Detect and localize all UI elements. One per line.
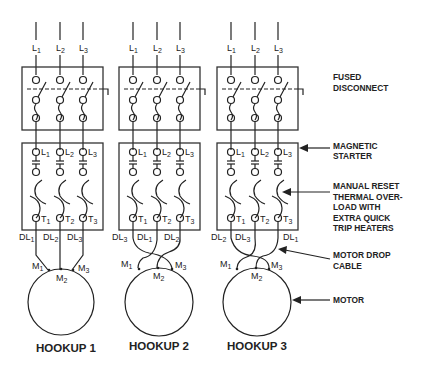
drop-labels: DL1 DL2 DL3: [19, 232, 83, 243]
svg-text:L1: L1: [236, 147, 245, 158]
svg-text:L3: L3: [79, 43, 88, 54]
svg-text:DL3: DL3: [235, 232, 251, 243]
svg-text:M2: M2: [153, 271, 165, 282]
svg-text:L2: L2: [251, 43, 260, 54]
svg-text:L2: L2: [260, 147, 269, 158]
svg-text:DL2: DL2: [43, 232, 59, 243]
callout-fused-disconnect: FUSED DISCONNECT: [333, 72, 389, 93]
callout-motor-drop-cable: MOTOR DROP CABLE: [278, 246, 391, 271]
svg-text:L1: L1: [138, 147, 147, 158]
motor-terminals: M1 M2 M3: [220, 259, 283, 282]
line-labels: L1 L2 L3: [227, 43, 283, 54]
starter-line-labels: L1 L2 L3: [138, 147, 194, 158]
fused-disconnect-switches: [27, 77, 108, 151]
motor-drop-cable: [133, 221, 180, 268]
hookup-2: L1 L2 L3 L1 L2 L3: [112, 22, 205, 352]
arrow-icon: [278, 246, 287, 254]
callout-magnetic-starter: MAGNETIC STARTER: [299, 141, 378, 161]
drop-labels: DL3 DL1 DL2: [112, 232, 180, 243]
motor-terminals: M1 M2 M3: [121, 259, 187, 282]
hookup-1: L1 L2 L3: [19, 22, 108, 354]
svg-text:M3: M3: [271, 260, 283, 271]
svg-text:L3: L3: [274, 43, 283, 54]
magnetic-starter-contacts: [225, 149, 288, 222]
svg-text:DL1: DL1: [19, 232, 35, 243]
svg-text:M2: M2: [56, 273, 68, 284]
svg-text:L2: L2: [162, 147, 171, 158]
svg-text:M3: M3: [78, 263, 90, 274]
fused-disconnect-switches: [222, 77, 303, 151]
svg-text:L2: L2: [56, 43, 65, 54]
svg-text:DISCONNECT: DISCONNECT: [333, 83, 389, 93]
arrow-icon: [299, 144, 308, 152]
svg-text:T2: T2: [162, 214, 172, 225]
svg-text:M3: M3: [175, 260, 187, 271]
svg-text:MANUAL RESET: MANUAL RESET: [333, 181, 400, 191]
svg-text:MOTOR DROP: MOTOR DROP: [333, 250, 391, 260]
line-labels: L1 L2 L3: [129, 43, 185, 54]
hookup-2-title: HOOKUP 2: [129, 340, 189, 352]
svg-text:THERMAL OVER-: THERMAL OVER-: [333, 192, 403, 202]
svg-text:CABLE: CABLE: [333, 261, 362, 271]
magnetic-starter-contacts: [127, 149, 190, 222]
svg-text:DL2: DL2: [211, 232, 227, 243]
hookup-3-title: HOOKUP 3: [227, 340, 287, 352]
svg-text:T1: T1: [41, 214, 51, 225]
line-labels: L1 L2 L3: [32, 43, 88, 54]
svg-text:L1: L1: [227, 43, 236, 54]
svg-text:T3: T3: [185, 214, 195, 225]
hookup-1-title: HOOKUP 1: [36, 342, 96, 354]
svg-text:T2: T2: [260, 214, 270, 225]
svg-text:T2: T2: [65, 214, 75, 225]
svg-text:LOAD WITH: LOAD WITH: [333, 202, 380, 212]
svg-text:L1: L1: [129, 43, 138, 54]
svg-text:MOTOR: MOTOR: [333, 295, 364, 305]
svg-text:L2: L2: [153, 43, 162, 54]
terminal-labels: T1 T2 T3: [236, 214, 293, 225]
svg-text:DL2: DL2: [164, 232, 180, 243]
svg-text:M1: M1: [220, 259, 232, 270]
terminal-labels: T1 T2 T3: [41, 214, 98, 225]
svg-text:L2: L2: [65, 147, 74, 158]
svg-text:T3: T3: [283, 214, 293, 225]
svg-text:DL3: DL3: [112, 232, 128, 243]
svg-text:L3: L3: [88, 147, 97, 158]
svg-text:L3: L3: [185, 147, 194, 158]
svg-text:T3: T3: [88, 214, 98, 225]
magnetic-starter-contacts: [30, 149, 93, 271]
callout-thermal-overload: MANUAL RESET THERMAL OVER- LOAD WITH EXT…: [282, 181, 403, 233]
svg-text:MAGNETIC: MAGNETIC: [333, 141, 378, 151]
hookup-3: L1 L2 L3 L1 L2 L3: [211, 22, 303, 352]
svg-text:DL3: DL3: [67, 232, 83, 243]
starter-line-labels: L1 L2 L3: [41, 147, 97, 158]
starter-line-labels: L1 L2 L3: [236, 147, 292, 158]
motor-terminals: M1 M2 M3: [32, 261, 90, 284]
svg-text:L1: L1: [41, 147, 50, 158]
svg-text:STARTER: STARTER: [333, 151, 372, 161]
arrow-icon: [282, 188, 291, 196]
svg-text:L3: L3: [283, 147, 292, 158]
svg-text:DL1: DL1: [137, 232, 153, 243]
svg-text:M1: M1: [121, 259, 133, 270]
terminal-labels: T1 T2 T3: [138, 214, 195, 225]
svg-text:EXTRA QUICK: EXTRA QUICK: [333, 213, 390, 223]
callout-motor: MOTOR: [292, 295, 364, 305]
arrow-icon: [292, 296, 301, 304]
svg-text:DL1: DL1: [283, 232, 299, 243]
svg-text:M2: M2: [251, 271, 263, 282]
svg-text:TRIP HEATERS: TRIP HEATERS: [333, 223, 394, 233]
svg-text:FUSED: FUSED: [333, 72, 361, 82]
hookup-wiring-diagram: L1 L2 L3: [0, 0, 427, 372]
svg-text:T1: T1: [236, 214, 246, 225]
svg-text:L3: L3: [176, 43, 185, 54]
svg-text:T1: T1: [138, 214, 148, 225]
fused-disconnect-switches: [124, 77, 205, 151]
svg-text:L1: L1: [32, 43, 41, 54]
